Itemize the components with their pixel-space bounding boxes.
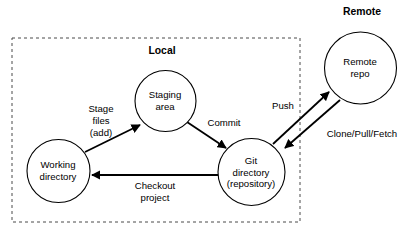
node-label-working-directory: Working directory	[40, 159, 77, 182]
node-label-git-directory-line1: Git	[227, 155, 276, 167]
edge-label-stage-files-line2: files	[88, 115, 113, 127]
edge-label-stage-files-line3: (add)	[88, 127, 113, 139]
node-label-git-directory-line3: (repository)	[227, 178, 276, 190]
edge-label-commit-line1: Commit	[207, 117, 240, 129]
edge-label-clone-pull-fetch-line1: Clone/Pull/Fetch	[327, 128, 397, 140]
group-label-remote-text: Remote	[343, 6, 381, 17]
node-label-git-directory-line2: directory	[227, 166, 276, 178]
group-label-remote: Remote	[343, 6, 381, 17]
node-label-staging-area-line1: Staging	[149, 89, 182, 101]
edge-label-push: Push	[272, 100, 294, 112]
diagram-graphics-layer	[0, 0, 410, 238]
edge-label-push-line1: Push	[272, 100, 294, 112]
edge-label-checkout-project: Checkout project	[135, 180, 176, 204]
edge-label-checkout-project-line2: project	[135, 192, 176, 204]
node-label-staging-area: Staging area	[149, 89, 182, 112]
node-label-remote-repo-line1: Remote	[343, 56, 377, 68]
edge-label-clone-pull-fetch: Clone/Pull/Fetch	[327, 128, 397, 140]
node-label-git-directory: Git directory (repository)	[227, 155, 276, 190]
edge-label-stage-files: Stage files (add)	[88, 103, 113, 138]
node-label-remote-repo: Remote repo	[343, 56, 377, 79]
node-label-working-directory-line2: directory	[40, 171, 77, 183]
edge-label-checkout-project-line1: Checkout	[135, 180, 176, 192]
group-label-local: Local	[148, 45, 175, 56]
git-workflow-diagram: Local Remote Working directory Staging a…	[0, 0, 410, 238]
edge-label-stage-files-line1: Stage	[88, 103, 113, 115]
node-label-staging-area-line2: area	[149, 101, 182, 113]
edge-label-commit: Commit	[207, 117, 240, 129]
group-label-local-text: Local	[148, 45, 175, 56]
node-label-remote-repo-line2: repo	[343, 68, 377, 80]
node-label-working-directory-line1: Working	[40, 159, 77, 171]
